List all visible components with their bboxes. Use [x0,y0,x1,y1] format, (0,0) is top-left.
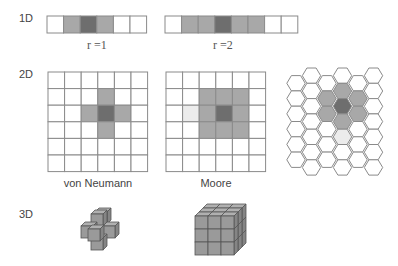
cross-front-front [88,229,100,241]
von-neumann-cell-empty [98,155,115,172]
hex-cell-neighbor [318,106,336,121]
moore-cell-empty [166,155,183,172]
moore-cell-center [216,105,233,122]
hex-cell-neighbor [349,91,367,106]
moore-cell-neighbor [216,89,233,106]
hex-cell-neighbor [349,106,367,121]
hex-cell-empty [364,160,382,175]
hex-cell-empty [287,76,305,91]
von-neumann-cell-empty [48,89,65,106]
hex-cell-empty [318,122,336,137]
moore-cell-empty [183,89,200,106]
moore-cell-empty [199,72,216,89]
moore-cell-empty [216,138,233,155]
caption-moore: Moore [166,177,266,189]
1d-cell-neighbor [231,16,248,33]
hex-cell-empty [287,91,305,106]
hex-cell-empty [333,68,351,83]
von-neumann-cell-empty [65,105,82,122]
hex-cell-empty [287,152,305,167]
von-neumann-cell-empty [65,72,82,89]
moore-cell-empty [249,105,266,122]
hex-cell-empty [349,152,367,167]
1d-cell-empty [165,16,182,33]
hex-cell-empty [302,68,320,83]
moore-cell-empty [166,138,183,155]
von-neumann-cell-empty [98,138,115,155]
hex-cell-neighbor [333,114,351,129]
moore-cell-faint [183,105,200,122]
1d-cell-neighbor [64,16,81,33]
von-neumann-cell-empty [81,122,98,139]
von-neumann-cell-empty [131,122,148,139]
moore-cell-empty [249,155,266,172]
moore-cell-empty [199,155,216,172]
hex-cell-faint [333,129,351,144]
von-neumann-cell-neighbor [98,122,115,139]
moore-cell-empty [232,138,249,155]
hex-cell-empty [302,83,320,98]
hex-cell-empty [302,99,320,114]
moore-cell-empty [216,72,233,89]
hex-cell-empty [364,68,382,83]
von-neumann-cell-empty [81,72,98,89]
hex-cell-empty [364,129,382,144]
von-neumann-cell-empty [81,155,98,172]
1d-cell-empty [113,16,130,33]
moore-cell-empty [166,122,183,139]
moore-cell-empty [232,155,249,172]
hex-cell-empty [333,145,351,160]
hex-cell-empty [364,145,382,160]
caption-von-neumann: von Neumann [48,177,148,189]
moore-cell-neighbor [232,105,249,122]
hex-cell-empty [349,137,367,152]
moore-cell-empty [249,89,266,106]
moore-cell-neighbor [199,89,216,106]
moore-cube-front [208,242,221,255]
moore-cell-empty [166,89,183,106]
von-neumann-cell-empty [98,72,115,89]
moore-cell-neighbor [232,122,249,139]
von-neumann-cell-empty [48,72,65,89]
von-neumann-cell-neighbor [114,105,131,122]
von-neumann-cell-empty [114,122,131,139]
1d-cell-center [80,16,97,33]
moore-cell-empty [216,155,233,172]
von-neumann-cell-empty [114,155,131,172]
moore-cell-empty [166,72,183,89]
moore-cell-neighbor [216,122,233,139]
1d-cell-empty [265,16,282,33]
hex-cell-empty [287,122,305,137]
1d-cell-neighbor [182,16,199,33]
1d-cell-neighbor [97,16,114,33]
moore-cell-empty [249,122,266,139]
moore-cell-empty [232,72,249,89]
moore-cell-neighbor [199,122,216,139]
hex-cell-empty [302,114,320,129]
moore-cell-neighbor [199,105,216,122]
moore-cube-front [195,216,208,229]
moore-cell-empty [183,155,200,172]
hex-cell-empty [287,106,305,121]
moore-cell-empty [183,72,200,89]
radius-label-r2: r =2 [193,38,253,53]
hex-cell-empty [333,160,351,175]
von-neumann-cell-empty [131,138,148,155]
moore-cube-front [195,242,208,255]
moore-cube-front [208,229,221,242]
von-neumann-cell-empty [114,72,131,89]
von-neumann-cell-neighbor [98,89,115,106]
von-neumann-cell-center [98,105,115,122]
hex-cell-empty [364,114,382,129]
hex-cell-empty [364,99,382,114]
hex-cell-empty [302,145,320,160]
von-neumann-cell-empty [48,122,65,139]
moore-cube-front [195,229,208,242]
von-neumann-cell-neighbor [81,105,98,122]
hex-cell-empty [302,160,320,175]
hex-cell-empty [287,137,305,152]
hex-cell-neighbor [333,83,351,98]
hex-cell-empty [318,137,336,152]
von-neumann-cell-empty [131,105,148,122]
hex-cell-empty [364,83,382,98]
